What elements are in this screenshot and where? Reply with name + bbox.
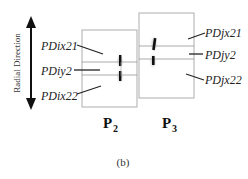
figure-caption: (b) bbox=[117, 156, 130, 169]
label-pdix21: PDix21 bbox=[40, 39, 78, 53]
arrow-up-icon bbox=[26, 16, 36, 28]
label-pdjx22: PDjx22 bbox=[204, 73, 242, 87]
p2-box bbox=[82, 30, 137, 107]
p3-spot-lower bbox=[152, 56, 155, 65]
panel-label-p3: P bbox=[162, 115, 171, 131]
label-pdjy2: PDjy2 bbox=[204, 48, 236, 62]
panel-label-p2: P bbox=[103, 115, 112, 131]
arrow-down-icon bbox=[26, 98, 36, 110]
label-pdjx21: PDjx21 bbox=[204, 26, 242, 40]
diagram: Radial Direction PDix21 PDiy2 PDix22 PDj… bbox=[0, 0, 248, 179]
label-pdiy2: PDiy2 bbox=[40, 64, 72, 78]
panel-p3 bbox=[139, 13, 194, 98]
radial-direction-arrow bbox=[26, 16, 36, 110]
panel-subscript-p2: 2 bbox=[113, 123, 118, 134]
p3-box bbox=[139, 13, 194, 98]
panel-p2 bbox=[82, 30, 137, 107]
label-pdix22: PDix22 bbox=[40, 89, 78, 103]
radial-direction-label: Radial Direction bbox=[12, 33, 22, 93]
panel-subscript-p3: 3 bbox=[172, 123, 177, 134]
